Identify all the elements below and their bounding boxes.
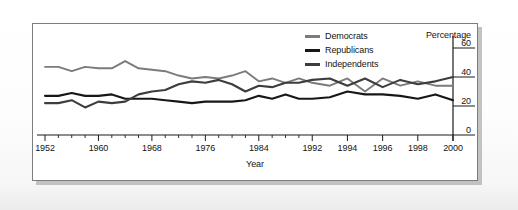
legend-label-republicans: Republicans bbox=[325, 44, 373, 56]
y-tick-label-60: 60 bbox=[451, 39, 471, 48]
y-tick-label-0: 0 bbox=[451, 126, 471, 135]
x-axis-title: Year bbox=[33, 159, 477, 169]
y-tick-label-40: 40 bbox=[451, 68, 471, 77]
y-tick-label-20: 20 bbox=[451, 97, 471, 106]
x-tick-label-1992: 1992 bbox=[292, 144, 332, 153]
x-tick-label-1984: 1984 bbox=[239, 144, 279, 153]
x-tick-label-1952: 1952 bbox=[25, 144, 65, 153]
legend-item-democrats: Democrats bbox=[305, 30, 378, 42]
line-chart-svg bbox=[33, 24, 477, 180]
legend-label-independents: Independents bbox=[325, 58, 378, 70]
x-tick-label-1996: 1996 bbox=[363, 144, 403, 153]
x-tick-label-1998: 1998 bbox=[398, 144, 438, 153]
legend-item-independents: Independents bbox=[305, 58, 378, 70]
x-tick-label-2000: 2000 bbox=[433, 144, 473, 153]
x-tick-label-1976: 1976 bbox=[185, 144, 225, 153]
legend-swatch-democrats bbox=[305, 35, 320, 38]
legend-swatch-independents bbox=[305, 63, 320, 66]
plot-area bbox=[33, 24, 477, 180]
chart-figure-panel: Democrats Republicans Independents Perce… bbox=[32, 23, 478, 181]
chart-legend: Democrats Republicans Independents bbox=[305, 30, 378, 70]
legend-swatch-republicans bbox=[305, 49, 320, 52]
legend-item-republicans: Republicans bbox=[305, 44, 378, 56]
x-tick-label-1994: 1994 bbox=[327, 144, 367, 153]
x-tick-label-1968: 1968 bbox=[132, 144, 172, 153]
paper-gradient-band bbox=[0, 184, 518, 210]
page-background: Democrats Republicans Independents Perce… bbox=[0, 0, 518, 210]
x-tick-label-1960: 1960 bbox=[78, 144, 118, 153]
legend-label-democrats: Democrats bbox=[325, 30, 368, 42]
